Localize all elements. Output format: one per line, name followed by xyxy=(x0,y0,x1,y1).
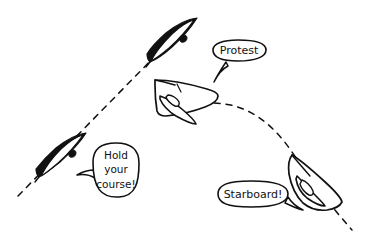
cartoon-scene: Protest Hold your course! Starboard! xyxy=(0,0,372,246)
bubble-line: Starboard! xyxy=(224,188,283,201)
bubble-line: Protest xyxy=(220,44,259,57)
bubble-line: course! xyxy=(96,178,135,190)
bubble-line: Hold xyxy=(104,149,128,161)
boat-crew-mark xyxy=(180,35,188,42)
bubble-line: your xyxy=(104,163,128,175)
sailing-right-of-way-illustration: Protest Hold your course! Starboard! xyxy=(0,0,372,246)
boat-crew-mark xyxy=(69,150,77,157)
